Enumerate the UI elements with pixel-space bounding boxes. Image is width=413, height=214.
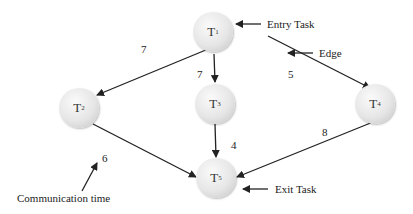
- node-label: T: [207, 24, 215, 40]
- weight-t1-t4: 5: [288, 69, 294, 80]
- edge-t3-t5: [215, 124, 216, 157]
- node-subscript: 1: [215, 28, 219, 36]
- edge-label: Edge: [319, 48, 342, 59]
- node-t4: T4: [355, 84, 395, 124]
- node-t3: T3: [195, 84, 235, 124]
- node-subscript: 4: [377, 100, 381, 108]
- node-subscript: 3: [217, 100, 221, 108]
- node-subscript: 5: [218, 174, 222, 182]
- node-label: T: [73, 100, 81, 116]
- node-label: T: [210, 170, 218, 186]
- edge-t1-t4: [268, 36, 370, 88]
- edge-t4-t5: [237, 122, 373, 177]
- edge-t1-t3: [214, 54, 215, 82]
- exit-task-label: Exit Task: [275, 184, 317, 195]
- node-t1: T1: [193, 12, 233, 52]
- edge-t2-t5: [93, 124, 196, 177]
- communication-time-pointer: [82, 163, 97, 191]
- node-t2: T2: [59, 88, 99, 128]
- communication-time-label: Communication time: [17, 193, 110, 204]
- weight-t4-t5: 8: [322, 127, 328, 138]
- weight-t2-t5: 6: [102, 153, 108, 164]
- weight-t1-t3: 7: [197, 69, 203, 80]
- node-label: T: [209, 96, 217, 112]
- task-graph-diagram: T1 T2 T3 T4 T5 7 7 5 6 4 8 Entry Task Ed…: [0, 0, 413, 214]
- node-subscript: 2: [81, 104, 85, 112]
- entry-task-label: Entry Task: [267, 19, 315, 30]
- weight-t3-t5: 4: [231, 140, 237, 151]
- weight-t1-t2: 7: [141, 44, 147, 55]
- node-label: T: [369, 96, 377, 112]
- node-t5: T5: [196, 158, 236, 198]
